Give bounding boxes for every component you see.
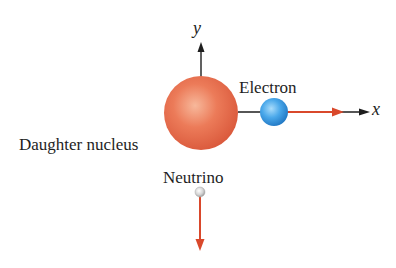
neutrino-momentum-arrow — [196, 196, 205, 251]
electron-momentum-arrow — [286, 108, 344, 117]
y-axis — [198, 42, 205, 78]
y-axis-arrowhead-icon — [198, 42, 205, 52]
neutrino-label: Neutrino — [163, 169, 223, 186]
electron-sphere — [260, 98, 288, 126]
x-axis-label: x — [372, 100, 380, 118]
neutrino-arrowhead-icon — [196, 239, 205, 251]
neutrino-sphere — [195, 187, 205, 197]
daughter-nucleus-label: Daughter nucleus — [19, 136, 138, 153]
x-axis-arrowhead-icon — [359, 109, 370, 116]
diagram-canvas — [0, 0, 396, 268]
daughter-nucleus-sphere — [164, 76, 238, 150]
electron-label: Electron — [239, 79, 297, 96]
y-axis-label: y — [193, 19, 201, 37]
electron-arrowhead-icon — [332, 108, 344, 117]
